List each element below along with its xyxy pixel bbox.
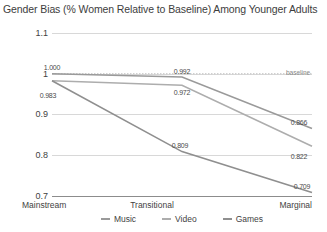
x-tick-marginal: Marginal (279, 200, 312, 210)
chart-container: Gender Bias (% Women Relative to Baselin… (0, 0, 327, 232)
data-label-games-transitional: 0.809 (172, 142, 189, 149)
data-label-music-marginal: 0.866 (291, 119, 308, 126)
legend-item-video[interactable]: Video (162, 214, 197, 224)
data-label-video-mainstream: 0.983 (40, 92, 57, 99)
data-label-video-transitional: 0.972 (174, 89, 191, 96)
baseline-label: baseline (286, 69, 310, 76)
legend-swatch-games-icon (223, 218, 232, 220)
chart-legend: Music Video Games (52, 214, 312, 224)
data-label-video-marginal: 0.822 (291, 153, 308, 160)
data-label-games-marginal: 0.709 (294, 183, 311, 190)
data-label-music-mainstream: 1.000 (44, 64, 61, 71)
legend-label-music: Music (114, 214, 136, 224)
series-line-games (52, 81, 312, 193)
legend-label-video: Video (175, 214, 197, 224)
legend-label-games: Games (236, 214, 263, 224)
plot-area: 1.1 1 0.9 0.8 0.7 baseline 1.000 0.992 0… (0, 0, 327, 232)
series-lines (0, 0, 327, 232)
legend-swatch-video-icon (162, 218, 171, 220)
x-tick-mainstream: Mainstream (22, 200, 66, 210)
legend-item-music[interactable]: Music (101, 214, 136, 224)
data-label-music-transitional: 0.992 (174, 68, 191, 75)
legend-swatch-music-icon (101, 218, 110, 220)
x-tick-transitional: Transitional (130, 200, 174, 210)
legend-item-games[interactable]: Games (223, 214, 263, 224)
